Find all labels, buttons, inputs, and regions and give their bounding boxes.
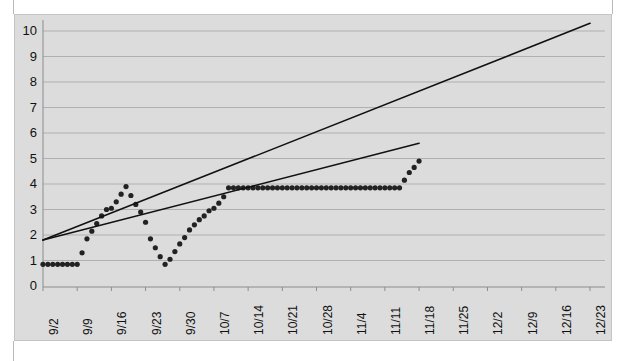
data-point: [314, 185, 319, 190]
data-point: [373, 185, 378, 190]
data-point: [40, 262, 45, 267]
data-point: [358, 185, 363, 190]
data-point: [192, 222, 197, 227]
data-point: [114, 199, 119, 204]
data-point: [55, 262, 60, 267]
x-tick-label-12/2: 12/2: [492, 312, 504, 335]
y-tick-label-6: 6: [13, 126, 37, 139]
data-point: [177, 241, 182, 246]
y-tick-label-1: 1: [13, 254, 37, 267]
data-point: [75, 262, 80, 267]
data-point: [158, 254, 163, 259]
data-point: [412, 165, 417, 170]
data-point: [104, 207, 109, 212]
data-point: [216, 201, 221, 206]
data-point: [309, 185, 314, 190]
data-point: [211, 206, 216, 211]
data-point: [270, 185, 275, 190]
data-point: [407, 170, 412, 175]
data-point: [162, 262, 167, 267]
data-point: [348, 185, 353, 190]
data-point: [319, 185, 324, 190]
x-tick-label-11/4: 11/4: [356, 313, 368, 335]
data-point: [109, 206, 114, 211]
data-point: [226, 185, 231, 190]
data-point: [202, 213, 207, 218]
data-point: [65, 262, 70, 267]
y-tick-label-4: 4: [13, 177, 37, 190]
data-point: [45, 262, 50, 267]
plot-background: [43, 20, 605, 287]
data-point: [260, 185, 265, 190]
data-point: [50, 262, 55, 267]
data-point: [329, 185, 334, 190]
data-point: [70, 262, 75, 267]
data-point: [353, 185, 358, 190]
data-point: [363, 185, 368, 190]
data-point: [397, 185, 402, 190]
data-point: [368, 185, 373, 190]
data-point: [182, 235, 187, 240]
x-tick-label-12/16: 12/16: [561, 305, 573, 335]
x-tick-label-10/28: 10/28: [322, 305, 334, 335]
data-point: [221, 194, 226, 199]
data-point: [338, 185, 343, 190]
data-point: [143, 220, 148, 225]
data-point: [280, 185, 285, 190]
data-point: [294, 185, 299, 190]
x-tick-label-9/30: 9/30: [185, 312, 197, 335]
x-tick-label-10/14: 10/14: [253, 305, 265, 335]
x-tick-label-9/23: 9/23: [151, 312, 163, 335]
data-point: [148, 236, 153, 241]
data-point: [206, 208, 211, 213]
data-point: [172, 249, 177, 254]
y-tick-label-3: 3: [13, 203, 37, 216]
chart-screenshot: 012345678910 9/29/99/169/239/3010/710/14…: [0, 0, 634, 361]
data-point: [416, 158, 421, 163]
y-tick-label-5: 5: [13, 152, 37, 165]
x-tick-label-12/9: 12/9: [527, 312, 539, 335]
data-point: [333, 185, 338, 190]
y-tick-label-7: 7: [13, 101, 37, 114]
data-point: [153, 245, 158, 250]
data-point: [265, 185, 270, 190]
data-point: [128, 193, 133, 198]
data-point: [285, 185, 290, 190]
x-tick-label-9/2: 9/2: [48, 318, 60, 335]
x-tick-label-10/7: 10/7: [219, 312, 231, 335]
plot-area: [0, 0, 634, 361]
data-point: [304, 185, 309, 190]
x-tick-label-11/18: 11/18: [424, 306, 436, 335]
data-point: [382, 185, 387, 190]
data-point: [343, 185, 348, 190]
data-point: [84, 236, 89, 241]
y-tick-label-9: 9: [13, 50, 37, 63]
data-point: [60, 262, 65, 267]
data-point: [289, 185, 294, 190]
data-point: [79, 250, 84, 255]
chart-canvas: [0, 0, 634, 361]
data-point: [167, 257, 172, 262]
data-point: [392, 185, 397, 190]
data-point: [324, 185, 329, 190]
y-tick-label-0: 0: [13, 279, 37, 292]
x-tick-label-9/9: 9/9: [82, 318, 94, 335]
data-point: [187, 227, 192, 232]
data-point: [387, 185, 392, 190]
x-tick-label-9/16: 9/16: [116, 312, 128, 335]
y-tick-label-10: 10: [13, 24, 37, 37]
x-tick-label-11/11: 11/11: [390, 307, 402, 335]
data-point: [377, 185, 382, 190]
data-point: [275, 185, 280, 190]
data-point: [231, 185, 236, 190]
x-tick-label-10/21: 10/21: [287, 305, 299, 335]
data-point: [402, 178, 407, 183]
data-point: [89, 229, 94, 234]
y-tick-label-8: 8: [13, 75, 37, 88]
data-point: [119, 192, 124, 197]
data-point: [197, 217, 202, 222]
x-tick-label-11/25: 11/25: [458, 306, 470, 335]
data-point: [299, 185, 304, 190]
y-tick-label-2: 2: [13, 228, 37, 241]
x-tick-label-12/23: 12/23: [595, 305, 607, 335]
